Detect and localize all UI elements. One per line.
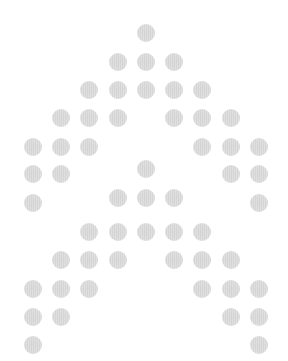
dot-icon	[52, 280, 70, 298]
dot-icon	[109, 223, 127, 241]
dot-icon	[193, 81, 211, 99]
dot-icon	[193, 280, 211, 298]
dot-icon	[165, 189, 183, 207]
dot-icon	[222, 251, 240, 269]
dot-icon	[137, 53, 155, 71]
double-chevron-dot-pattern	[0, 0, 288, 361]
dot-icon	[24, 165, 42, 183]
dot-icon	[165, 109, 183, 127]
dot-icon	[193, 109, 211, 127]
dot-icon	[24, 194, 42, 212]
dot-icon	[193, 138, 211, 156]
dot-icon	[222, 280, 240, 298]
dot-icon	[52, 251, 70, 269]
dot-icon	[24, 308, 42, 326]
dot-icon	[137, 223, 155, 241]
dot-icon	[109, 251, 127, 269]
dot-icon	[109, 189, 127, 207]
dot-icon	[165, 81, 183, 99]
dot-icon	[193, 251, 211, 269]
dot-icon	[137, 160, 155, 178]
dot-icon	[52, 138, 70, 156]
dot-icon	[165, 251, 183, 269]
dot-icon	[80, 280, 98, 298]
dot-icon	[109, 53, 127, 71]
dot-icon	[24, 138, 42, 156]
dot-icon	[137, 24, 155, 42]
dot-icon	[250, 165, 268, 183]
dot-icon	[250, 308, 268, 326]
dot-icon	[52, 109, 70, 127]
dot-icon	[137, 189, 155, 207]
dot-icon	[250, 336, 268, 354]
dot-icon	[80, 138, 98, 156]
dot-icon	[222, 138, 240, 156]
dot-icon	[222, 109, 240, 127]
dot-icon	[222, 308, 240, 326]
dot-icon	[80, 81, 98, 99]
dot-icon	[24, 280, 42, 298]
dot-icon	[80, 109, 98, 127]
dot-icon	[222, 165, 240, 183]
dot-icon	[250, 138, 268, 156]
dot-icon	[193, 223, 211, 241]
dot-icon	[52, 308, 70, 326]
dot-icon	[109, 81, 127, 99]
dot-icon	[165, 53, 183, 71]
dot-icon	[52, 165, 70, 183]
dot-icon	[250, 280, 268, 298]
dot-icon	[24, 336, 42, 354]
dot-icon	[80, 251, 98, 269]
dot-icon	[109, 109, 127, 127]
dot-icon	[80, 223, 98, 241]
dot-icon	[137, 81, 155, 99]
dot-icon	[165, 223, 183, 241]
dot-icon	[250, 194, 268, 212]
